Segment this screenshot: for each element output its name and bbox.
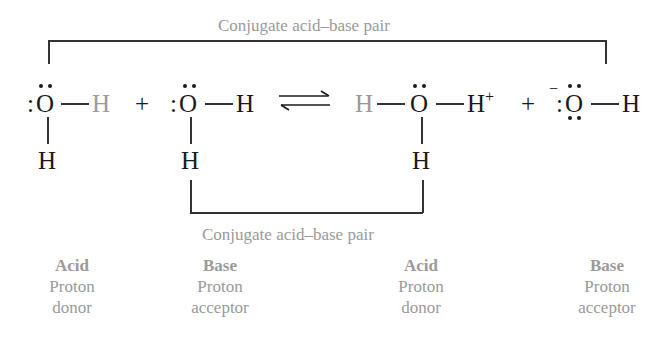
plus-sign-2: + <box>521 91 535 116</box>
lone-pair-dot <box>577 116 581 120</box>
bottom-bracket-right-leg <box>422 180 424 213</box>
species-4-oxygen: O <box>565 91 583 116</box>
role-label-acid-1: Acid Proton donor <box>22 255 122 318</box>
species-4-lonepair-colon: : <box>556 91 563 116</box>
bottom-bracket-left-leg <box>190 180 192 213</box>
role-desc-line-2: acceptor <box>170 297 270 318</box>
lone-pair-dot <box>422 84 426 88</box>
role-title: Base <box>557 255 657 276</box>
role-desc-line-1: Proton <box>22 276 122 297</box>
lone-pair-dot <box>413 84 417 88</box>
species-3-bond-right <box>436 103 464 105</box>
role-desc-line-2: donor <box>371 297 471 318</box>
lone-pair-dot <box>577 84 581 88</box>
role-desc-line-1: Proton <box>557 276 657 297</box>
lone-pair-dot <box>568 116 572 120</box>
role-label-base-2: Base Proton acceptor <box>557 255 657 318</box>
role-desc-line-2: acceptor <box>557 297 657 318</box>
role-title: Acid <box>22 255 122 276</box>
bottom-bracket-label: Conjugate acid–base pair <box>202 225 374 245</box>
species-4-bond-right <box>591 103 619 105</box>
role-title: Base <box>170 255 270 276</box>
species-3-hydrogen-left: H <box>355 91 373 116</box>
role-title: Acid <box>371 255 471 276</box>
role-desc-line-1: Proton <box>371 276 471 297</box>
species-3-bond-left <box>377 103 405 105</box>
role-desc-line-2: donor <box>22 297 122 318</box>
species-3-charge: + <box>485 88 494 106</box>
role-label-base-1: Base Proton acceptor <box>170 255 270 318</box>
species-3-bond-down <box>421 117 423 144</box>
lone-pair-dot <box>568 84 572 88</box>
species-4-hydrogen-right: H <box>622 91 640 116</box>
species-3-oxygen: O <box>410 91 428 116</box>
role-desc-line-1: Proton <box>170 276 270 297</box>
species-3-hydrogen-right: H <box>467 91 485 116</box>
role-label-acid-2: Acid Proton donor <box>371 255 471 318</box>
bottom-bracket-horizontal <box>190 212 423 214</box>
species-3-hydrogen-bottom: H <box>412 148 430 173</box>
